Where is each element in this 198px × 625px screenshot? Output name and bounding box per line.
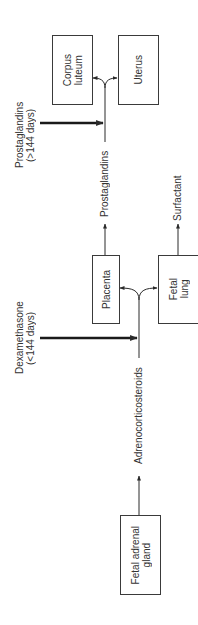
fetal-adrenal-gland-label: Fetal adrenal gland	[130, 526, 152, 584]
dexamethasone-line1: Dexamethasone	[14, 295, 25, 381]
prostaglandins-input-line1: Prostaglandins	[14, 95, 25, 175]
placenta-label: Placenta	[101, 270, 112, 309]
placenta-box: Placenta	[92, 255, 120, 324]
dexamethasone-label: Dexamethasone (<144 days)	[14, 295, 36, 381]
adrenocorticosteroids-label: Adrenocorticosteroids	[133, 360, 144, 472]
uterus-box: Uterus	[118, 35, 159, 105]
fetal-adrenal-gland-box: Fetal adrenal gland	[120, 515, 161, 595]
fetal-lung-box: Fetal lung	[158, 255, 198, 324]
prostaglandins-input-label: Prostaglandins (>144 days)	[14, 95, 36, 175]
uterus-label: Uterus	[133, 55, 144, 84]
surfactant-label: Surfactant	[172, 175, 183, 222]
dexamethasone-line2: (<144 days)	[25, 295, 36, 381]
prostaglandins-input-line2: (>144 days)	[25, 95, 36, 175]
corpus-luteum-label: Corpus luteum	[62, 54, 84, 86]
fetal-lung-label: Fetal lung	[168, 278, 190, 300]
corpus-luteum-box: Corpus luteum	[52, 35, 93, 105]
prostaglandins-flow-label: Prostaglandins	[99, 145, 110, 222]
